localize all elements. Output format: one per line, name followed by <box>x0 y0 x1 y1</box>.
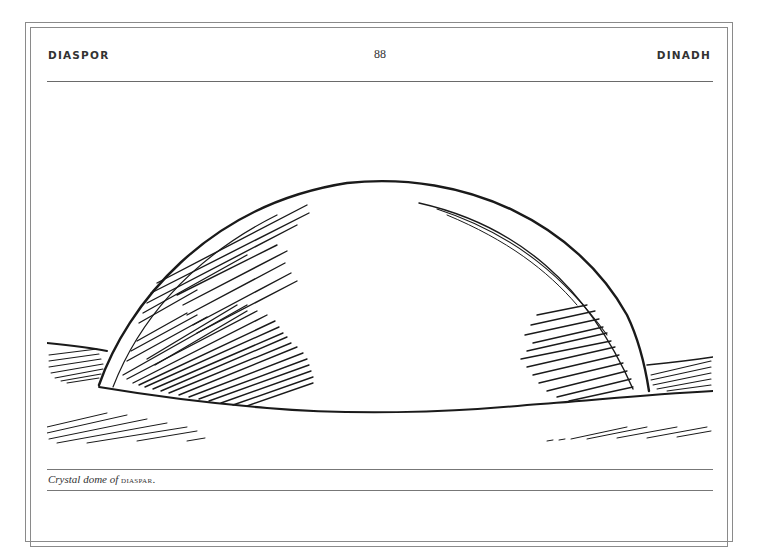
caption-rule-top <box>47 469 713 470</box>
crystal-dome-illustration <box>47 165 713 450</box>
running-head-left: DIASPOR <box>48 49 109 61</box>
caption-place-name: DIASPAR <box>121 474 152 485</box>
running-head-right: DINADH <box>657 49 711 61</box>
caption-text: Crystal dome of <box>48 473 121 485</box>
caption-rule-bottom <box>47 490 713 491</box>
header-rule <box>47 81 713 82</box>
page-number: 88 <box>368 47 392 62</box>
caption-period: . <box>152 473 155 485</box>
figure-caption: Crystal dome of DIASPAR. <box>48 473 155 485</box>
